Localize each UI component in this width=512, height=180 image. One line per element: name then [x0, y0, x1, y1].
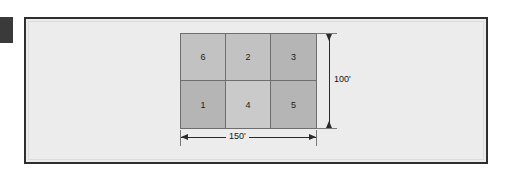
vertical-dimension-line	[329, 34, 330, 128]
parcel-cell: 2	[226, 34, 271, 81]
parcel-label: 1	[200, 100, 205, 110]
horizontal-extension-line-right	[316, 130, 317, 146]
parcel-cell: 1	[181, 81, 226, 128]
arrow-right-icon	[309, 134, 316, 140]
parcel-cell: 4	[226, 81, 271, 128]
horizontal-dimension-label: 150'	[226, 131, 249, 141]
arrow-up-icon	[326, 121, 332, 128]
parcel-cell: 5	[271, 81, 316, 128]
parcel-cell: 6	[181, 34, 226, 81]
arrow-left-icon	[181, 134, 188, 140]
page-edge-marker	[0, 17, 13, 43]
parcel-label: 6	[200, 52, 205, 62]
parcel-label: 3	[291, 52, 296, 62]
parcel-label: 4	[245, 100, 250, 110]
vertical-dimension-label: 100'	[334, 74, 351, 84]
parcel-label: 2	[245, 52, 250, 62]
site-plan-diagram: 6 2 3 1 4 5 100' 150'	[0, 0, 512, 180]
parcel-grid: 6 2 3 1 4 5	[180, 33, 317, 129]
parcel-label: 5	[291, 100, 296, 110]
vertical-extension-line-bottom	[317, 128, 337, 129]
parcel-cell: 3	[271, 34, 316, 81]
arrow-down-icon	[326, 34, 332, 41]
